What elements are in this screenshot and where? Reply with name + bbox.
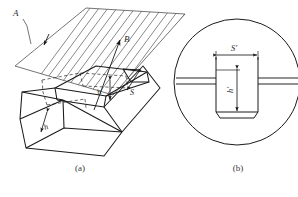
groove-depth-label-detail: h′ — [225, 87, 235, 93]
caption-part-b: (b) — [178, 163, 298, 173]
figure-container: A B — [0, 0, 298, 197]
label-b-text: B — [124, 34, 130, 44]
label-a-leader — [23, 19, 31, 44]
caption-part-a: (a) — [0, 163, 160, 173]
label-a-group: A — [12, 8, 31, 44]
panel-b-group: S′ h′ — [174, 19, 298, 145]
label-a-text: A — [12, 8, 19, 18]
dimension-groove-depth: h — [41, 112, 49, 132]
panel-a-group: A B — [12, 4, 192, 156]
groove-width-label: S′ — [231, 43, 237, 53]
step-width-label: S — [130, 88, 134, 97]
detail-circle-boundary — [174, 19, 298, 145]
cutting-plane-outline — [15, 8, 185, 95]
groove-depth-label: h — [43, 122, 50, 132]
